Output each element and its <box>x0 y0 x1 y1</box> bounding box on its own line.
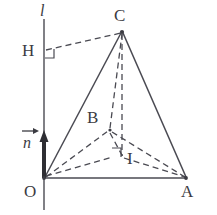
edge-HC <box>46 33 121 50</box>
vertex-dot-O <box>42 176 46 180</box>
label-vector-n: n <box>22 135 31 151</box>
label-point-I: I <box>127 150 133 167</box>
vertex-dot-C <box>120 30 124 34</box>
vector-arrow-glyph <box>22 126 39 134</box>
vector-n-arrowhead <box>40 130 49 142</box>
edge-IA <box>124 158 185 177</box>
label-point-B: B <box>87 109 98 126</box>
right-angle-I <box>112 148 121 157</box>
edge-OC <box>45 33 121 177</box>
edge-BA <box>112 132 185 177</box>
geometry-figure: l H C B I O A n <box>0 0 217 215</box>
label-point-O: O <box>24 183 36 200</box>
label-point-A: A <box>181 183 193 200</box>
label-point-H: H <box>22 42 34 59</box>
vertex-dot-A <box>184 176 188 180</box>
label-vector-n-text: n <box>22 135 31 151</box>
edge-BC <box>110 34 122 128</box>
label-point-C: C <box>114 7 125 24</box>
label-line-l: l <box>40 3 44 19</box>
vertex-dot-B <box>108 128 111 131</box>
edge-OI <box>46 157 113 176</box>
edge-OB <box>46 131 108 177</box>
